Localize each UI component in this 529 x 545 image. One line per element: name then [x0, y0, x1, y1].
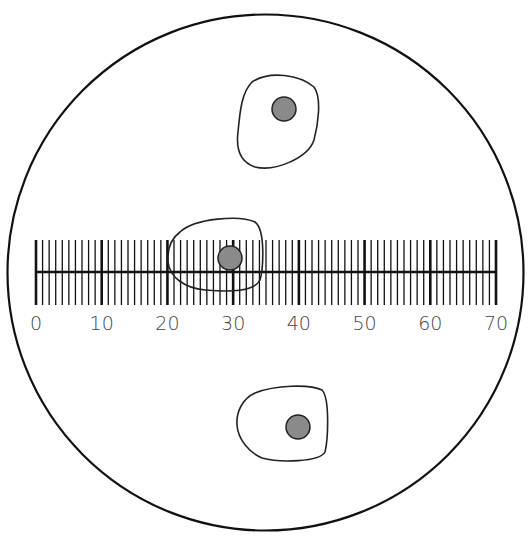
cell-top	[238, 75, 319, 168]
scale-label: 0	[30, 312, 42, 334]
scale-label: 10	[90, 312, 114, 334]
microscope-figure: 010203040506070	[0, 0, 529, 545]
nucleus	[218, 246, 242, 270]
cell-middle	[168, 218, 263, 291]
scale-label: 40	[287, 312, 311, 334]
scale-label: 60	[418, 312, 442, 334]
cell-bottom	[237, 386, 328, 461]
cell-membrane-outline	[238, 75, 319, 168]
scale-label: 50	[352, 312, 376, 334]
ocular-micrometer-scale: 010203040506070	[30, 240, 508, 334]
cell-membrane-outline	[168, 218, 263, 291]
scale-label: 20	[155, 312, 179, 334]
scale-label: 70	[484, 312, 508, 334]
field-of-view-diagram: 010203040506070	[0, 0, 529, 545]
nucleus	[272, 97, 296, 121]
cell-membrane-outline	[237, 386, 328, 461]
scale-label: 30	[221, 312, 245, 334]
cells-group	[168, 75, 328, 461]
nucleus	[286, 415, 310, 439]
